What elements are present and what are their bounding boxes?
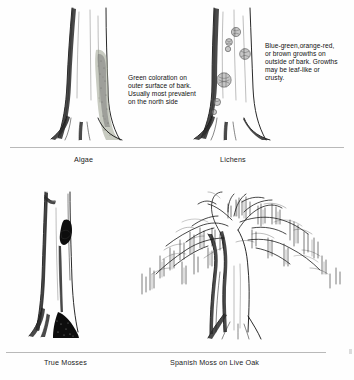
note-lichens-line-3: outside of bark. Growths (265, 58, 354, 66)
oak-limbs (156, 192, 320, 274)
caption-lichens: Lichens (220, 155, 246, 164)
note-lichens: Blue-green,orange-red, or brown growths … (265, 42, 354, 82)
ground-line-top (10, 147, 344, 148)
spanish-moss-drapes (142, 197, 340, 294)
live-oak-tree-drawing (124, 182, 350, 350)
page-edge-mark (349, 349, 352, 354)
note-lichens-line-4: may be leaf-like or (265, 66, 354, 74)
caption-algae: Algae (74, 155, 93, 164)
note-lichens-line-1: Blue-green,orange-red, (265, 42, 354, 50)
panel-true-mosses (28, 188, 118, 350)
caption-spanish-moss: Spanish Moss on Live Oak (170, 358, 259, 367)
note-lichens-line-2: or brown growths on (265, 50, 354, 58)
panel-spanish-moss (124, 182, 350, 350)
note-lichens-line-5: crusty. (265, 74, 354, 82)
ground-line-bottom (6, 352, 326, 353)
caption-true-mosses: True Mosses (44, 358, 87, 367)
moss-mat-upper (60, 219, 72, 245)
illustration-sheet: Green coloration on outer surface of bar… (0, 0, 354, 380)
true-mosses-tree-drawing (28, 188, 118, 350)
